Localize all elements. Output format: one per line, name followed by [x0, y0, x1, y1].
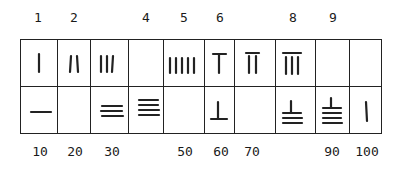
bottom-label-20: 20: [55, 144, 95, 159]
rod-60-icon: [211, 102, 227, 119]
rod-40-icon: [139, 100, 159, 115]
top-label-2: 2: [54, 10, 94, 25]
rod-2-icon: [70, 56, 78, 72]
top-label-5: 5: [164, 10, 204, 25]
rod-6-icon: [213, 54, 226, 73]
top-label-1: 1: [18, 10, 58, 25]
rod-90-icon: [323, 98, 342, 123]
bottom-label-30: 30: [92, 144, 132, 159]
rod-80-icon: [283, 101, 302, 123]
bottom-label-90: 90: [312, 144, 352, 159]
rod-8-icon: [283, 53, 301, 74]
rod-5-icon: [170, 58, 194, 73]
top-label-4: 4: [126, 10, 166, 25]
bottom-label-100: 100: [347, 144, 387, 159]
rod-numeral-grid: [20, 39, 382, 134]
rod-7-icon: [246, 53, 259, 73]
bottom-label-70: 70: [232, 144, 272, 159]
rod-glyphs: [21, 40, 383, 135]
rod-3-icon: [101, 56, 113, 72]
bottom-label-50: 50: [165, 144, 205, 159]
rod-30-icon: [101, 106, 123, 116]
bottom-label-10: 10: [20, 144, 60, 159]
top-label-6: 6: [200, 10, 240, 25]
top-label-8: 8: [273, 10, 313, 25]
top-label-9: 9: [313, 10, 353, 25]
rod-100-icon: [366, 102, 367, 121]
